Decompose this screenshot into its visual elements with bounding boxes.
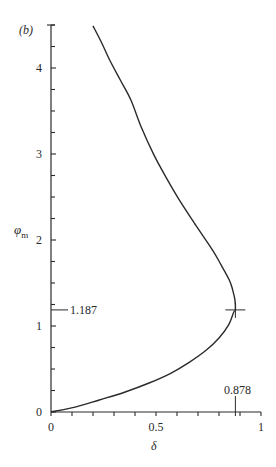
x-tick-label: 0.5	[141, 421, 171, 433]
x-annotation-label: 0.878	[224, 384, 251, 396]
y-axis-label: φm	[14, 224, 28, 241]
x-axis-label: δ	[151, 440, 157, 452]
x-tick-label: 0	[36, 421, 66, 433]
y-tick-label: 3	[12, 148, 42, 160]
y-tick-label: 4	[12, 62, 42, 74]
panel-label: (b)	[19, 24, 33, 36]
y-axis-label-sub: m	[21, 230, 28, 240]
axes	[51, 25, 261, 412]
annotation-marks	[51, 302, 245, 416]
y-annotation-label: 1.187	[70, 304, 97, 316]
y-tick-label: 1	[12, 320, 42, 332]
y-tick-label: 0	[12, 406, 42, 418]
axis-ticks	[47, 25, 261, 416]
data-curve	[51, 26, 235, 412]
x-tick-label: 1	[246, 421, 276, 433]
